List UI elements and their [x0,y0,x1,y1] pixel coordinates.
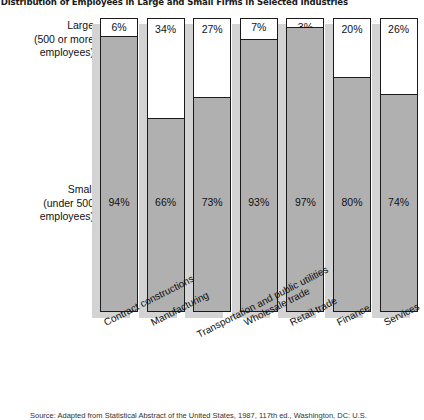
stacked-bar[interactable]: 26%74% [380,18,418,312]
bar-segment-large[interactable]: 26% [381,19,417,95]
bar-group[interactable]: 26%74% [380,18,418,314]
bar-value-large: 27% [194,23,230,35]
bar-group[interactable]: 20%80% [333,18,371,314]
bar-segment-large[interactable]: 27% [194,19,230,98]
stacked-bar[interactable]: 34%66% [147,18,185,312]
bar-value-large: 20% [334,23,370,35]
legend-label-small-line3: employees) [0,210,94,224]
bar-value-small: 74% [381,196,417,208]
bar-segment-large[interactable]: 20% [334,19,370,78]
bar-segment-large[interactable]: 7% [241,19,277,40]
source-note: Source: Adapted from Statistical Abstrac… [30,411,367,420]
bar-value-large: 6% [101,21,137,33]
bar-segment-small[interactable]: 93% [241,40,277,311]
bar-value-small: 97% [287,196,323,208]
bar-group[interactable]: 27%73% [193,18,231,314]
bar-value-large: 26% [381,23,417,35]
plot-area: 6%94%34%66%27%73%7%93%3%97%20%80%26%74% [96,18,422,314]
bar-segment-large[interactable]: 34% [148,19,184,119]
bar-segment-small[interactable]: 73% [194,98,230,311]
chart-title: t Distribution of Employees in Large and… [0,0,424,7]
bar-group[interactable]: 7%93% [240,18,278,314]
legend-label-large-line2: (500 or more [0,33,94,47]
legend-label-small-line2: (under 500 [0,197,94,211]
bar-value-large: 7% [241,21,277,33]
bar-segment-small[interactable]: 94% [101,37,137,311]
bar-segment-large[interactable]: 3% [287,19,323,28]
bar-value-small: 93% [241,196,277,208]
legend-label-large-line1: Large [0,19,94,33]
stacked-bar[interactable]: 6%94% [100,18,138,312]
bar-segment-small[interactable]: 80% [334,78,370,311]
bar-group[interactable]: 34%66% [147,18,185,314]
legend-label-small-line1: Small [0,183,94,197]
bar-value-small: 80% [334,196,370,208]
bar-value-small: 66% [148,196,184,208]
stacked-bar[interactable]: 20%80% [333,18,371,312]
bar-segment-small[interactable]: 74% [381,95,417,311]
legend-label-large: Large (500 or more employees) [0,19,94,60]
legend-label-small: Small (under 500 employees) [0,183,94,224]
bar-value-small: 73% [194,196,230,208]
bar-value-small: 94% [101,196,137,208]
stacked-bar[interactable]: 27%73% [193,18,231,312]
bar-group[interactable]: 6%94% [100,18,138,314]
stacked-bar[interactable]: 7%93% [240,18,278,312]
bar-value-large: 34% [148,23,184,35]
bar-segment-large[interactable]: 6% [101,19,137,37]
legend-label-large-line3: employees) [0,46,94,60]
